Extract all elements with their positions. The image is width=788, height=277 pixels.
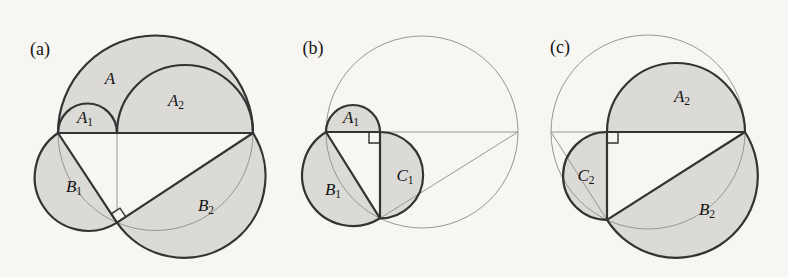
panel-label-c: (c) <box>550 37 570 58</box>
region-label-c-A2: A2 <box>674 88 690 105</box>
figure-canvas <box>0 0 788 277</box>
region-label-b-A1: A1 <box>343 109 359 126</box>
panel-label-a: (a) <box>30 39 50 60</box>
lune-b2-fill-c <box>607 132 758 258</box>
lunes-figure: (a) (b) (c) A A2 A1 B1 B2 A1 B1 C1 A2 C2… <box>0 0 788 277</box>
region-label-a-A2: A2 <box>168 92 184 109</box>
panel-c-drawing <box>551 35 758 258</box>
region-label-a-B2: B2 <box>198 197 214 214</box>
panel-a-drawing <box>35 36 266 258</box>
region-label-b-C1: C1 <box>396 167 413 184</box>
region-label-c-B2: B2 <box>699 201 715 218</box>
right-angle-mark-c <box>607 132 618 143</box>
region-label-c-C2: C2 <box>577 167 594 184</box>
region-label-a-B1: B1 <box>66 178 82 195</box>
right-angle-mark-b <box>369 132 380 143</box>
region-label-a-A: A <box>105 70 115 87</box>
panel-label-b: (b) <box>303 38 324 59</box>
region-label-a-A1: A1 <box>77 109 93 126</box>
lune-b2-fill <box>117 133 265 258</box>
region-label-b-B1: B1 <box>325 181 341 198</box>
